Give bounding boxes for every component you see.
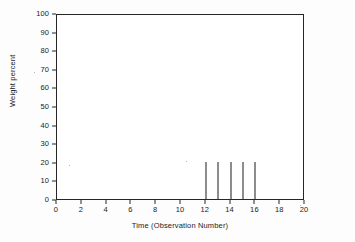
data-spike: [243, 162, 244, 199]
data-spike: [255, 162, 256, 199]
x-axis-tick: [279, 200, 280, 204]
x-axis-tick: [254, 200, 255, 204]
x-axis-tick-label: 20: [300, 206, 309, 214]
y-axis-tick-label: 20: [40, 159, 49, 167]
plot-area: [57, 15, 303, 199]
x-axis-tick: [80, 200, 81, 204]
y-axis-tick-label: 30: [40, 140, 49, 148]
x-axis-tick-label: 16: [250, 206, 259, 214]
y-axis-tick: [52, 14, 56, 15]
y-axis-tick-label: 90: [40, 29, 49, 37]
scan-artifact: [300, 205, 301, 206]
x-axis-tick: [130, 200, 131, 204]
y-axis-tick: [52, 181, 56, 182]
y-axis-title: Weight percent: [9, 55, 17, 107]
plot-frame: [56, 14, 304, 200]
x-axis-tick: [204, 200, 205, 204]
x-axis-tick: [155, 200, 156, 204]
y-axis-tick-label: 100: [36, 10, 49, 18]
x-axis-tick-label: 6: [128, 206, 132, 214]
x-axis-tick-label: 0: [54, 206, 58, 214]
x-axis-tick-label: 8: [153, 206, 157, 214]
x-axis-tick-label: 10: [176, 206, 185, 214]
y-axis-tick-label: 80: [40, 47, 49, 55]
y-axis-tick-label: 10: [40, 178, 49, 186]
x-axis-tick-label: 2: [79, 206, 83, 214]
data-spike: [205, 162, 206, 199]
y-axis-tick: [52, 88, 56, 89]
y-axis-tick: [52, 51, 56, 52]
x-axis-tick-label: 18: [275, 206, 284, 214]
y-axis-tick-label: 50: [40, 103, 49, 111]
scan-artifact: [34, 72, 35, 73]
chart-figure: 0102030405060708090100 02468101214161820…: [0, 0, 355, 242]
y-axis-tick-label: 40: [40, 122, 49, 130]
y-axis-tick-label: 0: [45, 196, 49, 204]
y-axis-tick: [52, 144, 56, 145]
x-axis-title: Time (Observation Number): [56, 222, 304, 230]
y-axis-tick-label: 70: [40, 66, 49, 74]
x-axis-tick-label: 12: [201, 206, 210, 214]
x-axis-tick-label: 4: [103, 206, 107, 214]
y-axis-tick: [52, 69, 56, 70]
y-axis-tick: [52, 107, 56, 108]
data-spike: [218, 162, 219, 199]
y-axis-tick: [52, 32, 56, 33]
x-axis-tick-label: 14: [225, 206, 234, 214]
y-axis-tick-label: 60: [40, 85, 49, 93]
x-axis-tick: [105, 200, 106, 204]
x-axis-tick: [56, 200, 57, 204]
y-axis-tick: [52, 125, 56, 126]
y-axis-tick: [52, 162, 56, 163]
x-axis-tick: [304, 200, 305, 204]
x-axis-tick: [229, 200, 230, 204]
data-spike: [230, 162, 231, 199]
x-axis-tick: [180, 200, 181, 204]
